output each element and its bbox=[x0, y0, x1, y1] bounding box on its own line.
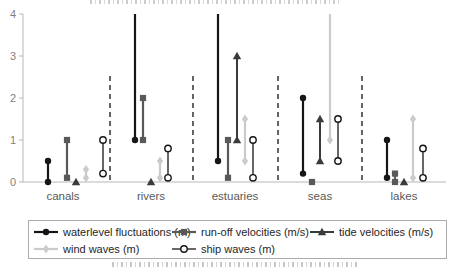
legend-item: wind waves (m) bbox=[33, 242, 139, 256]
legend-item-label: run-off velocities (m/s) bbox=[201, 225, 309, 239]
clipped-text-fragment-bottom bbox=[112, 262, 358, 267]
category-label: rivers bbox=[137, 190, 165, 202]
category-label: seas bbox=[308, 190, 333, 202]
legend-item-label: tide velocities (m/s) bbox=[339, 225, 433, 239]
y-tick-label: 0 bbox=[10, 176, 16, 188]
filled-diamond-legend-icon bbox=[33, 243, 59, 255]
y-tick-label: 2 bbox=[10, 92, 16, 104]
y-tick-label: 1 bbox=[10, 134, 16, 146]
filled-square-legend-icon bbox=[171, 226, 197, 238]
category-label: lakes bbox=[391, 190, 418, 202]
plot-svg: 01234canalsriversestuariesseaslakes bbox=[0, 0, 456, 212]
series-tide-velocities-m-s bbox=[72, 52, 408, 185]
filled-circle-legend-icon bbox=[33, 226, 59, 238]
filled-triangle-legend-icon bbox=[309, 226, 335, 238]
y-tick-label: 3 bbox=[10, 50, 16, 62]
y-tick-label: 4 bbox=[10, 8, 16, 20]
legend-item: run-off velocities (m/s) bbox=[171, 225, 309, 239]
legend-item-label: ship waves (m) bbox=[201, 242, 275, 256]
legend-box: waterlevel fluctuations (m)run-off veloc… bbox=[28, 220, 447, 259]
series-ship-waves-m bbox=[100, 116, 426, 181]
series-wind-waves-m bbox=[83, 14, 416, 182]
legend-item-label: wind waves (m) bbox=[63, 242, 139, 256]
open-circle-legend-icon bbox=[171, 243, 197, 255]
legend-item: ship waves (m) bbox=[171, 242, 275, 256]
legend-item: waterlevel fluctuations (m) bbox=[33, 225, 191, 239]
chart-figure: 01234canalsriversestuariesseaslakes wate… bbox=[0, 0, 456, 271]
series-run-off-velocities-m-s bbox=[64, 95, 398, 185]
category-label: canals bbox=[46, 190, 79, 202]
legend-item: tide velocities (m/s) bbox=[309, 225, 433, 239]
category-label: estuaries bbox=[212, 190, 259, 202]
category-labels: canalsriversestuariesseaslakes bbox=[46, 190, 417, 202]
